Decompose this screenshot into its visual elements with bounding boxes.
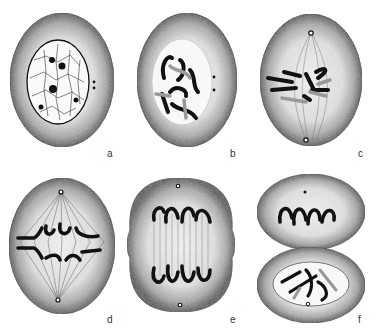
centrosome-bottom [178, 303, 182, 307]
cell-b-prophase [137, 13, 237, 147]
mitosis-diagram [0, 0, 376, 329]
centrosome-top [176, 184, 180, 188]
panel-label-d: d [107, 314, 113, 325]
panel-label-b: b [230, 148, 236, 159]
panel-label-c: c [358, 148, 363, 159]
cell-e-anaphase [127, 178, 235, 312]
nucleus [152, 39, 212, 125]
centrosome-bottom [306, 302, 310, 306]
cell-d-metaphase [9, 178, 115, 314]
centrosome-top [59, 190, 63, 194]
centrosome-top [309, 31, 313, 35]
cell-f-telophase [257, 174, 365, 323]
panel-label-e: e [230, 314, 236, 325]
centrosome-top [304, 191, 307, 194]
centrosome-bottom [56, 298, 60, 302]
centrosome-bottom [304, 138, 308, 142]
cell-a-interphase [10, 13, 114, 147]
panel-label-a: a [107, 148, 113, 159]
panel-label-f: f [358, 314, 361, 325]
cell-c-prometaphase [260, 14, 362, 146]
